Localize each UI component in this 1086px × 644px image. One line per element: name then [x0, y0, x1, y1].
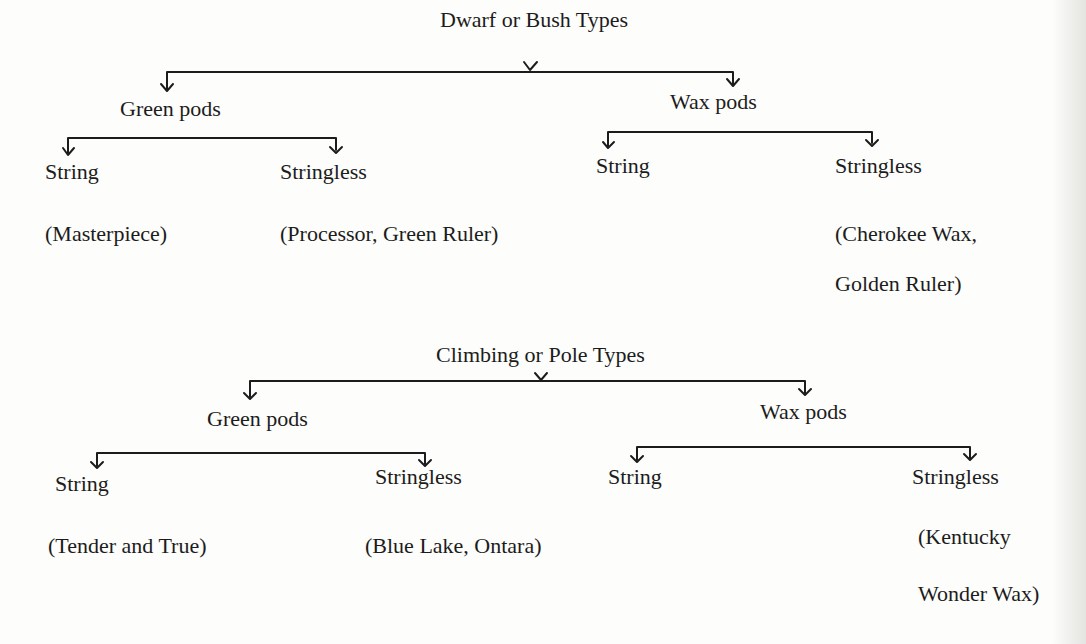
top-green-pods-label: Green pods: [120, 98, 221, 120]
top-wax-stringless-example-line1: (Cherokee Wax,: [835, 223, 977, 245]
top-wax-stringless-label: Stringless: [835, 155, 922, 177]
bottom-green-string-label: String: [55, 473, 109, 495]
top-main-line: [167, 72, 733, 90]
top-green-sub-line: [68, 138, 336, 153]
top-wax-string-label: String: [596, 155, 650, 177]
top-wax-stringless-example-line2: Golden Ruler): [835, 273, 961, 295]
bottom-wax-string-label: String: [608, 466, 662, 488]
top-green-stringless-label: Stringless: [280, 161, 367, 183]
root-arrow-icon: [524, 62, 537, 70]
bottom-tree-root: Climbing or Pole Types: [436, 344, 645, 366]
bottom-green-stringless-example: (Blue Lake, Ontara): [365, 535, 542, 557]
top-tree-root: Dwarf or Bush Types: [440, 9, 628, 31]
bottom-wax-pods-label: Wax pods: [760, 401, 847, 423]
bottom-wax-stringless-example-line1: (Kentucky: [918, 526, 1011, 548]
bottom-wax-stringless-example-line2: Wonder Wax): [918, 583, 1039, 605]
bottom-main-line: [250, 381, 805, 397]
bottom-wax-sub-line: [637, 447, 970, 460]
bottom-green-stringless-label: Stringless: [375, 466, 462, 488]
top-wax-sub-line: [608, 132, 872, 146]
bottom-wax-stringless-label: Stringless: [912, 466, 999, 488]
top-wax-pods-label: Wax pods: [670, 91, 757, 113]
top-green-string-example: (Masterpiece): [45, 223, 167, 245]
top-green-string-label: String: [45, 161, 99, 183]
bottom-green-string-example: (Tender and True): [48, 535, 207, 557]
root-arrow-icon: [535, 373, 547, 380]
bottom-green-pods-label: Green pods: [207, 408, 308, 430]
top-green-stringless-example: (Processor, Green Ruler): [280, 223, 498, 245]
